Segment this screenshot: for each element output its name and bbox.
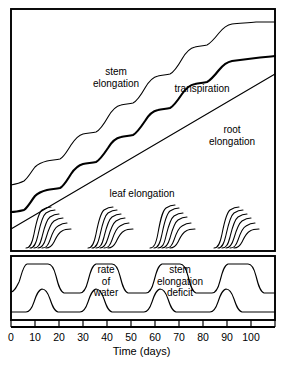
label-root-elongation-line1: root [223, 124, 240, 135]
label-of: of [102, 276, 110, 287]
x-tick-label-70: 70 [167, 331, 191, 343]
label-stem-elongation-deficit: stem elongation deficit [148, 264, 212, 299]
label-water: water [94, 287, 118, 298]
x-tick-label-50: 50 [119, 331, 143, 343]
label-stem-elongation: stem elongation [86, 66, 146, 89]
x-tick-label-80: 80 [191, 331, 215, 343]
leaf-burst-2 [88, 207, 133, 248]
label-root-elongation: root elongation [198, 124, 266, 147]
x-tick-label-40: 40 [95, 331, 119, 343]
x-tick-label-20: 20 [47, 331, 71, 343]
chart-canvas [0, 0, 283, 365]
label-leaf-elongation: leaf elongation [100, 188, 184, 200]
series-rate-of-water [11, 264, 275, 293]
label-stem-elongation-line2: elongation [93, 78, 139, 89]
label-transpiration: transpiration [166, 83, 238, 95]
series-leaf-elongation [26, 205, 259, 248]
leaf-burst-1 [26, 207, 71, 248]
label-stem-lower: stem [169, 264, 191, 275]
series-root-elongation [11, 74, 275, 229]
leaf-burst-3 [150, 205, 195, 248]
x-axis-title: Time (days) [0, 345, 283, 357]
x-tick-label-30: 30 [71, 331, 95, 343]
figure-root: stem elongation transpiration root elong… [0, 0, 283, 365]
x-axis [11, 320, 275, 327]
label-rate-of-water: rate of water [85, 264, 127, 299]
label-deficit: deficit [167, 287, 193, 298]
label-stem-elongation-line1: stem [105, 66, 127, 77]
x-tick-label-60: 60 [143, 331, 167, 343]
x-tick-label-100: 100 [239, 331, 263, 343]
x-tick-label-10: 10 [23, 331, 47, 343]
series-stem-elongation [11, 22, 275, 185]
leaf-burst-4 [214, 207, 259, 248]
x-tick-label-0: 0 [0, 331, 23, 343]
label-rate: rate [97, 264, 114, 275]
label-elongation-lower: elongation [157, 276, 203, 287]
x-tick-label-90: 90 [215, 331, 239, 343]
lower-panel-frame [11, 256, 275, 320]
label-root-elongation-line2: elongation [209, 136, 255, 147]
